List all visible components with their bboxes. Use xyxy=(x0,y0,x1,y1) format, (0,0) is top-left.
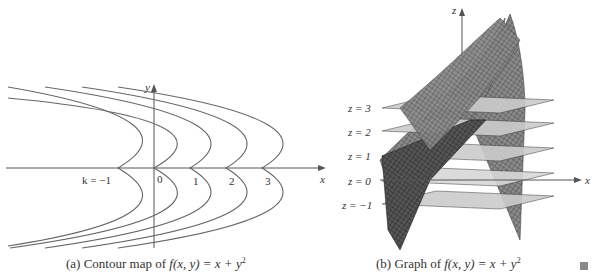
caption-b-func: f(x, y) = x + y xyxy=(444,256,516,271)
level-label-k-0: 0 xyxy=(157,173,163,185)
figure-canvas: y x k = −1 0 1 2 3 z x z = 3 z xyxy=(0,0,596,280)
plane-label-z-neg1: z = −1 xyxy=(341,199,372,211)
contour-map: y x k = −1 0 1 2 3 xyxy=(6,81,326,248)
level-curve-k-0 xyxy=(8,98,177,248)
caption-b: (b) Graph of f(x, y) = x + y2 xyxy=(376,256,521,272)
caption-b-prefix: (b) Graph of xyxy=(376,256,444,271)
z-axis-label: z xyxy=(451,4,457,16)
y-axis-arrow-icon xyxy=(151,84,157,92)
level-label-k-3: 3 xyxy=(265,175,271,187)
level-curve-k-neg1 xyxy=(8,87,143,246)
x-axis-label: x xyxy=(319,173,325,185)
x-axis-3d-arrow-icon xyxy=(574,177,582,183)
y-axis-label: y xyxy=(144,81,150,93)
caption-b-sup: 2 xyxy=(517,256,521,265)
plane-label-z-3: z = 3 xyxy=(347,102,371,114)
caption-a-prefix: (a) Contour map of xyxy=(66,256,169,271)
x-axis-arrow-icon xyxy=(318,165,326,171)
x-axis-3d-label: x xyxy=(584,174,590,186)
level-label-k-neg1: k = −1 xyxy=(82,174,111,186)
caption-a: (a) Contour map of f(x, y) = x + y2 xyxy=(66,256,246,272)
end-of-example-marker xyxy=(580,262,588,270)
caption-a-sup: 2 xyxy=(242,256,246,265)
plane-label-z-2: z = 2 xyxy=(347,126,371,138)
plane-label-z-1: z = 1 xyxy=(347,150,371,162)
caption-a-func: f(x, y) = x + y xyxy=(169,256,241,271)
level-label-k-1: 1 xyxy=(193,175,199,187)
z-axis-arrow-icon xyxy=(459,8,465,16)
level-label-k-2: 2 xyxy=(229,175,235,187)
plane-label-z-0: z = 0 xyxy=(347,175,371,187)
surface-graph: z x z = 3 z = 2 z = 1 z = 0 z = −1 xyxy=(341,4,590,250)
